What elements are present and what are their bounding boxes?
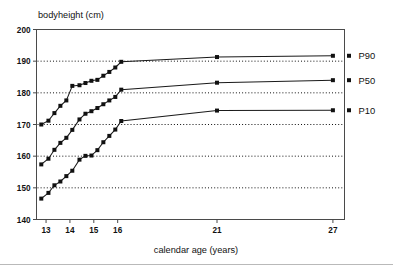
data-point-marker <box>89 109 93 113</box>
data-point-marker <box>95 106 99 110</box>
legend: P90P50P10 <box>347 50 375 115</box>
legend-label-p50: P50 <box>359 75 376 86</box>
growth-percentile-chart: bodyheight (cm) 140150160170180190200 13… <box>0 0 393 273</box>
data-point-marker <box>101 140 105 144</box>
legend-label-p90: P90 <box>359 50 376 61</box>
data-point-marker <box>101 74 105 78</box>
data-point-marker <box>215 109 219 113</box>
data-point-marker <box>39 162 43 166</box>
data-point-marker <box>107 98 111 102</box>
data-point-marker <box>77 83 81 87</box>
chart-figure: bodyheight (cm) 140150160170180190200 13… <box>0 0 393 273</box>
data-point-marker <box>46 191 50 195</box>
y-axis-title: bodyheight (cm) <box>38 10 104 20</box>
data-point-marker <box>113 128 117 132</box>
data-point-marker <box>58 104 62 108</box>
x-axis-ticks: 131415162127 <box>41 220 337 235</box>
data-point-marker <box>331 108 335 112</box>
data-point-marker <box>89 79 93 83</box>
x-axis-title: calendar age (years) <box>154 245 238 255</box>
data-point-marker <box>119 119 123 123</box>
x-tick-label-13: 13 <box>41 226 51 235</box>
y-tick-label-150: 150 <box>17 184 31 193</box>
data-point-marker <box>39 197 43 201</box>
data-point-marker <box>113 95 117 99</box>
series-p10 <box>39 108 335 200</box>
data-point-marker <box>46 119 50 123</box>
data-point-marker <box>52 111 56 115</box>
data-point-marker <box>52 148 56 152</box>
data-point-marker <box>331 54 335 58</box>
x-tick-label-16: 16 <box>113 226 123 235</box>
data-point-marker <box>95 78 99 82</box>
data-point-marker <box>119 60 123 64</box>
data-point-marker <box>46 157 50 161</box>
data-point-marker <box>119 88 123 92</box>
data-point-marker <box>215 81 219 85</box>
data-point-marker <box>83 81 87 85</box>
data-point-marker <box>83 154 87 158</box>
series-p50 <box>39 78 335 166</box>
y-axis-ticks: 140150160170180190200 <box>17 26 37 225</box>
legend-marker-p50 <box>347 78 351 82</box>
bottom-divider <box>0 264 393 265</box>
data-point-marker <box>113 66 117 70</box>
legend-marker-p10 <box>347 108 351 112</box>
data-point-marker <box>64 174 68 178</box>
y-tick-label-160: 160 <box>17 152 31 161</box>
y-tick-label-180: 180 <box>17 89 31 98</box>
data-point-marker <box>70 84 74 88</box>
data-point-marker <box>52 183 56 187</box>
x-tick-label-21: 21 <box>212 226 222 235</box>
data-point-marker <box>58 141 62 145</box>
data-point-marker <box>89 154 93 158</box>
data-point-marker <box>77 158 81 162</box>
gridlines <box>38 61 344 188</box>
data-point-marker <box>39 123 43 127</box>
data-point-marker <box>107 70 111 74</box>
data-point-marker <box>101 102 105 106</box>
legend-marker-p90 <box>347 54 351 58</box>
y-tick-label-190: 190 <box>17 57 31 66</box>
data-point-marker <box>58 180 62 184</box>
y-axis-title-text: bodyheight (cm) <box>38 10 104 20</box>
data-series-layer <box>39 54 335 201</box>
x-tick-label-14: 14 <box>65 226 75 235</box>
y-tick-label-200: 200 <box>17 26 31 35</box>
legend-label-p10: P10 <box>359 105 376 116</box>
data-point-marker <box>64 136 68 140</box>
data-point-marker <box>70 169 74 173</box>
data-point-marker <box>70 128 74 132</box>
x-tick-label-27: 27 <box>328 226 338 235</box>
data-point-marker <box>215 55 219 59</box>
data-point-marker <box>64 98 68 102</box>
data-point-marker <box>95 148 99 152</box>
x-tick-label-15: 15 <box>89 226 99 235</box>
data-point-marker <box>331 78 335 82</box>
x-axis-title-text: calendar age (years) <box>154 245 238 255</box>
y-tick-label-170: 170 <box>17 121 31 130</box>
y-tick-label-140: 140 <box>17 216 31 225</box>
data-point-marker <box>83 112 87 116</box>
data-point-marker <box>77 117 81 121</box>
data-point-marker <box>107 134 111 138</box>
